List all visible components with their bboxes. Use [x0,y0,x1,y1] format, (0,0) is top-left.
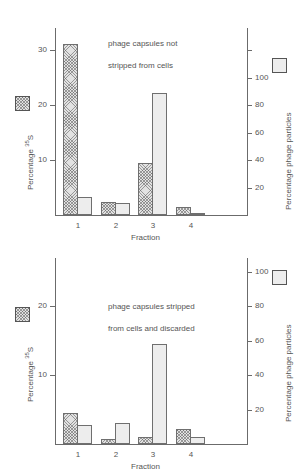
bar-hatched [101,202,116,215]
y2-tick-label: 60 [255,337,281,345]
y2-tick [247,160,252,161]
bar-hatched [63,44,78,215]
x-tick-label: 3 [142,450,164,459]
bar-plain [190,213,205,215]
bar-plain [115,203,130,215]
chart-panel-bottom: Percentage 35S Percentage phage particle… [0,240,307,475]
y-tick-label: 10 [21,371,47,379]
left-axis-line [55,28,56,216]
bar-hatched [176,207,191,215]
y2-tick-label: 100 [255,268,281,276]
y-tick-label: 20 [21,302,47,310]
y-tick [50,375,55,376]
x-axis-title: Fraction [131,462,160,471]
y2-tick-label: 20 [255,406,281,414]
bar-plain [77,425,92,444]
x-axis-line [55,444,247,445]
bar-plain [152,344,167,444]
y2-tick-label: 60 [255,129,281,137]
bar-plain [190,437,205,444]
bar-hatched [101,439,116,444]
y2-tick [247,341,252,342]
bar-plain [77,197,92,215]
y2-tick [247,272,252,273]
y2-tick-label: 40 [255,156,281,164]
plot-area-bottom: 102020406080100 1234 [0,240,307,475]
plot-area-top: 10203020406080100 1234 [0,0,307,252]
y2-tick [247,188,252,189]
bar-hatched [138,437,153,444]
bar-plain [152,93,167,215]
y2-tick [247,375,252,376]
y2-tick [247,105,252,106]
bar-hatched [63,413,78,444]
chart-panel-top: Percentage 35S Percentage phage particle… [0,0,307,252]
y-tick [50,160,55,161]
y2-tick [247,410,252,411]
y-tick-label: 20 [21,101,47,109]
y2-tick-label: 80 [255,302,281,310]
x-tick-label: 2 [105,450,127,459]
x-tick-label: 4 [180,221,202,230]
x-tick-label: 1 [67,450,89,459]
right-axis-line [247,258,248,445]
y2-tick [247,78,252,79]
y2-tick-label: 100 [255,74,281,82]
y-tick [50,306,55,307]
y2-tick-label: 20 [255,184,281,192]
y-tick-label: 10 [21,156,47,164]
y2-tick [247,133,252,134]
y2-tick [247,50,252,51]
x-axis-line [55,215,247,216]
bar-plain [115,423,130,444]
bar-hatched [176,429,191,444]
x-tick-label: 3 [142,221,164,230]
y2-tick [247,306,252,307]
y-tick-label: 30 [21,46,47,54]
figure-root: Percentage 35S Percentage phage particle… [0,0,307,475]
y2-tick-label: 80 [255,101,281,109]
y2-tick-label: 40 [255,371,281,379]
bar-hatched [138,163,153,215]
left-axis-line [55,258,56,445]
x-tick-label: 4 [180,450,202,459]
x-tick-label: 2 [105,221,127,230]
y-tick [50,50,55,51]
y-tick [50,105,55,106]
x-tick-label: 1 [67,221,89,230]
